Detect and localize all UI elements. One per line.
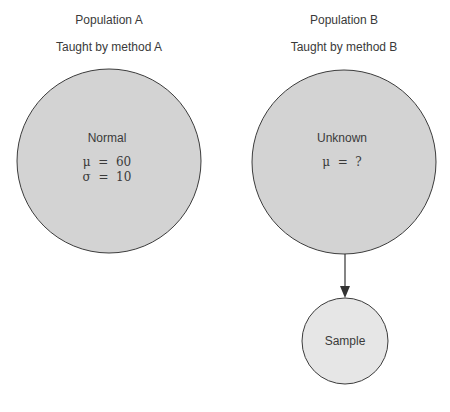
population-b-title: Population B <box>310 13 378 27</box>
population-b-subtitle: Taught by method B <box>291 40 398 54</box>
sample-label: Sample <box>325 334 366 348</box>
arrowhead-icon <box>340 286 350 298</box>
population-a-distribution: Normal <box>88 131 127 145</box>
population-a-subtitle: Taught by method A <box>56 40 162 54</box>
population-b-mean: μ = ? <box>322 155 362 169</box>
population-a-mean: μ = 60 <box>83 155 131 169</box>
population-b-distribution: Unknown <box>317 131 367 145</box>
population-a-std-dev: σ = 10 <box>83 170 132 184</box>
diagram-canvas <box>0 0 450 412</box>
population-a-title: Population A <box>75 13 142 27</box>
